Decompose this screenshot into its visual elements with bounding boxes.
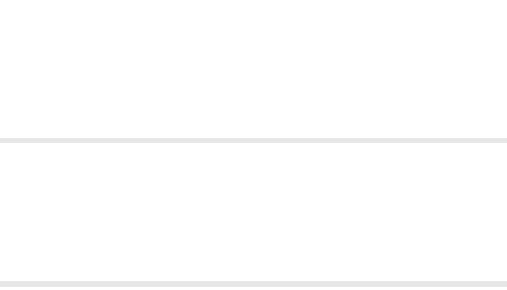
line-chart: 100% 90% 80% 70% 60% 50% 40% 30% 20% 10%… bbox=[0, 0, 507, 290]
chart-container: 100% 90% 80% 70% 60% 50% 40% 30% 20% 10%… bbox=[0, 0, 507, 290]
scan-artifact-bottom: 100% 90% 80% 70% 60% 50% 40% 30% 20% 10%… bbox=[0, 281, 507, 287]
scan-artifact bbox=[0, 138, 507, 143]
